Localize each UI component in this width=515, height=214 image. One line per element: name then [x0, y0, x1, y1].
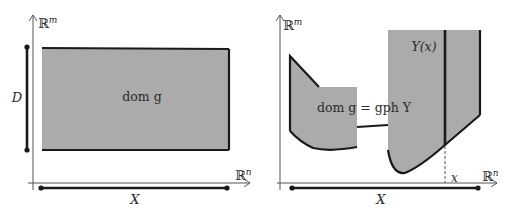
left-panel: ℝm ℝn dom g D X: [11, 15, 252, 207]
region-label: dom g = gph Y: [317, 100, 412, 115]
x-bar-label: X: [375, 192, 386, 207]
d-label: D: [11, 90, 23, 105]
right-panel: ℝm ℝn dom g = gph Y Y(x) x X: [277, 15, 499, 207]
x-bar-label: X: [129, 192, 140, 207]
x-interval-bar: [289, 185, 480, 190]
y-axis-label: ℝm: [283, 17, 302, 33]
x-interval-bar: [38, 185, 229, 190]
d-interval-bar: [24, 44, 29, 152]
x-axis-label: ℝn: [235, 167, 252, 183]
region-label: dom g: [122, 89, 161, 104]
point-x-label: x: [451, 171, 458, 185]
diagram-canvas: ℝm ℝn dom g D X ℝm ℝn dom g = gph Y Y(x)…: [0, 0, 515, 214]
fiber-label: Y(x): [411, 39, 436, 54]
connector-segment: [357, 125, 388, 127]
y-axis-label: ℝm: [38, 15, 57, 31]
x-axis-label: ℝn: [482, 168, 499, 184]
